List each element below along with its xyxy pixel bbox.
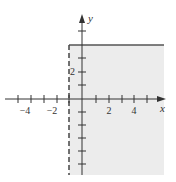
x-tick-label: 4 [132, 105, 137, 116]
x-tick-label: −2 [47, 105, 58, 116]
x-axis-label: x [159, 102, 165, 114]
x-tick-label: −4 [20, 105, 31, 116]
y-axis-label: y [87, 12, 93, 24]
x-tick-label: 2 [107, 105, 112, 116]
shaded-region [69, 45, 164, 175]
inequality-graph: −4 −2 2 4 x 2 y [0, 0, 176, 182]
y-tick-label: 2 [70, 66, 75, 77]
y-axis-arrow-icon [79, 14, 85, 23]
